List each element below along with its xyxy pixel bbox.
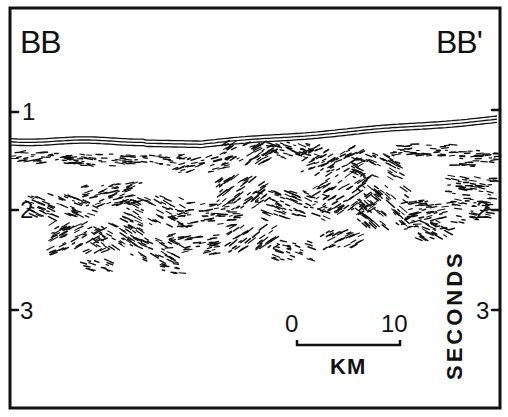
scale-end-label: 10 [381, 312, 408, 336]
figure-frame [10, 8, 500, 408]
axis-unit-label: SECONDS [444, 250, 466, 380]
seismic-profile-figure [0, 0, 508, 417]
right-tick-label-3: 3 [476, 299, 489, 323]
scale-start-label: 0 [285, 312, 298, 336]
scale-unit-label: KM [330, 356, 366, 378]
left-tick-label-1: 1 [22, 100, 35, 124]
profile-end-label: BB' [436, 26, 482, 58]
profile-start-label: BB [20, 26, 61, 58]
subsurface-reflectors [10, 140, 501, 273]
left-tick-label-2: 2 [20, 198, 33, 222]
left-tick-label-3: 3 [20, 299, 33, 323]
seafloor-reflector [11, 116, 497, 148]
scale-bar [297, 340, 400, 345]
right-tick-label-2: 2 [476, 198, 489, 222]
